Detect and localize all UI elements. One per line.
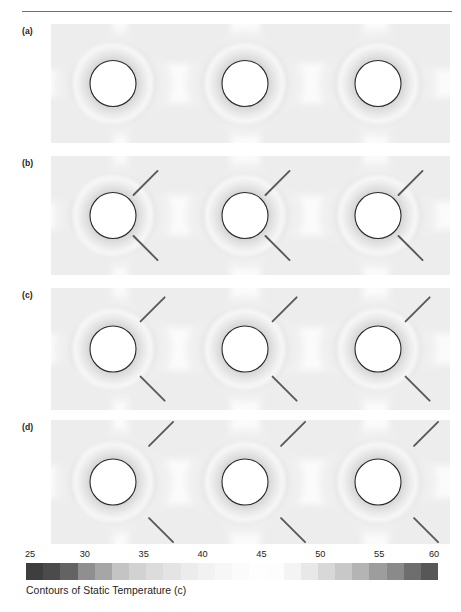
panel-label-a: (a) bbox=[22, 26, 33, 36]
cylinder-1 bbox=[90, 326, 136, 372]
cylinder-3 bbox=[355, 193, 401, 239]
cylinder-2 bbox=[222, 61, 268, 107]
panel-label-d: (d) bbox=[22, 422, 33, 432]
colorbar-band-20 bbox=[369, 563, 386, 580]
colorbar-gradient bbox=[26, 563, 438, 580]
colorbar-caption: Contours of Static Temperature (c) bbox=[26, 585, 438, 596]
colorbar-band-17 bbox=[318, 563, 335, 580]
colorbar-band-21 bbox=[387, 563, 404, 580]
colorbar-tick-25: 25 bbox=[25, 549, 35, 559]
colorbar-band-8 bbox=[163, 563, 180, 580]
colorbar-band-13 bbox=[249, 563, 266, 580]
colorbar-band-23 bbox=[421, 563, 438, 580]
colorbar-band-4 bbox=[95, 563, 112, 580]
colorbar-band-11 bbox=[215, 563, 232, 580]
colorbar-band-5 bbox=[112, 563, 129, 580]
contour-panel-c bbox=[51, 288, 450, 410]
colorbar-band-15 bbox=[284, 563, 301, 580]
contour-panel-d bbox=[51, 420, 450, 544]
contour-panel-b bbox=[51, 156, 450, 275]
colorbar-group: 2530354045505560 Contours of Static Temp… bbox=[26, 549, 438, 596]
page-header-text bbox=[22, 0, 452, 10]
colorbar-band-22 bbox=[404, 563, 421, 580]
contour-panel-a bbox=[51, 24, 450, 143]
colorbar-tick-50: 50 bbox=[315, 549, 325, 559]
colorbar-band-1 bbox=[43, 563, 60, 580]
colorbar-tick-60: 60 bbox=[429, 549, 439, 559]
panel-label-c: (c) bbox=[22, 290, 33, 300]
colorbar-band-0 bbox=[26, 563, 43, 580]
cylinder-2 bbox=[222, 459, 268, 505]
cylinder-3 bbox=[355, 459, 401, 505]
cylinder-2 bbox=[222, 326, 268, 372]
cylinder-2 bbox=[222, 193, 268, 239]
colorbar-band-7 bbox=[146, 563, 163, 580]
colorbar-tick-45: 45 bbox=[256, 549, 266, 559]
colorbar-band-16 bbox=[301, 563, 318, 580]
colorbar-band-18 bbox=[335, 563, 352, 580]
colorbar-band-10 bbox=[198, 563, 215, 580]
colorbar-band-2 bbox=[60, 563, 77, 580]
colorbar-tick-40: 40 bbox=[197, 549, 207, 559]
colorbar-band-14 bbox=[266, 563, 283, 580]
cylinder-1 bbox=[90, 193, 136, 239]
colorbar-tick-55: 55 bbox=[374, 549, 384, 559]
colorbar-band-6 bbox=[129, 563, 146, 580]
cylinder-3 bbox=[355, 326, 401, 372]
colorbar-tick-35: 35 bbox=[139, 549, 149, 559]
colorbar-band-12 bbox=[232, 563, 249, 580]
colorbar-band-3 bbox=[78, 563, 95, 580]
cylinder-1 bbox=[90, 459, 136, 505]
cylinder-1 bbox=[90, 61, 136, 107]
colorbar-tick-30: 30 bbox=[80, 549, 90, 559]
colorbar-band-19 bbox=[352, 563, 369, 580]
colorbar-tick-labels: 2530354045505560 bbox=[26, 549, 438, 563]
page-header-rule bbox=[22, 11, 452, 12]
panel-label-b: (b) bbox=[22, 158, 33, 168]
colorbar-band-9 bbox=[181, 563, 198, 580]
cylinder-3 bbox=[355, 61, 401, 107]
